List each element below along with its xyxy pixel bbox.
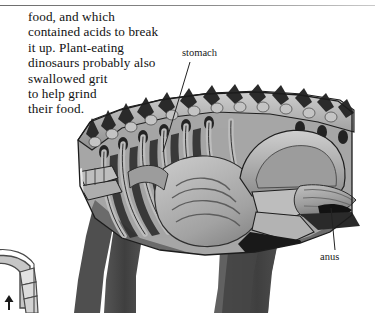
label-stomach: stomach xyxy=(182,48,217,59)
dinosaur-legs xyxy=(74,164,300,313)
label-anus: anus xyxy=(320,252,339,263)
limb-detail-inset-sketch xyxy=(0,238,52,313)
page-top-rule xyxy=(0,5,375,6)
rib-gaps xyxy=(110,128,231,238)
up-arrow-icon xyxy=(5,295,14,310)
tail-base xyxy=(294,185,360,230)
body-paragraph: food, and which contained acids to break… xyxy=(28,9,218,117)
book-page: food, and which contained acids to break… xyxy=(0,0,375,313)
rib-cage-outlines xyxy=(104,121,262,236)
anus-leader-line xyxy=(331,208,335,250)
shoulder-girdle xyxy=(70,166,122,200)
stomach-organ xyxy=(128,156,261,247)
rib-cage xyxy=(104,121,262,236)
pelvis xyxy=(238,130,345,260)
